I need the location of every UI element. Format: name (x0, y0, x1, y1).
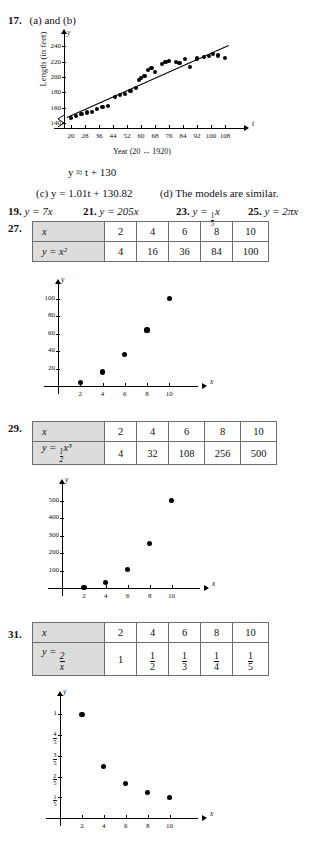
table-cell: 12 (137, 643, 169, 676)
y-tick (60, 518, 64, 519)
fraction-denominator: 5 (53, 779, 56, 787)
x-tick (170, 815, 171, 819)
fraction: 14 (214, 651, 219, 672)
table-cell: 4 (105, 442, 137, 465)
answer-23-prefix: y = (193, 205, 211, 217)
table-cell: 10 (233, 222, 269, 242)
table-header-x: x (33, 422, 105, 442)
data-point (216, 53, 220, 57)
data-point (103, 580, 108, 585)
x-tick-label: 2 (74, 822, 90, 830)
x-tick (127, 125, 128, 129)
data-point (145, 790, 150, 795)
y-tick-label: 60 (36, 329, 55, 337)
data-point (202, 55, 206, 59)
x-tick-label: 6 (120, 592, 136, 600)
y-tick (62, 108, 66, 109)
fraction-numerator: 4 (53, 731, 56, 738)
y-tick (60, 501, 64, 502)
y-tick (58, 797, 62, 798)
x-axis-name: x (212, 579, 215, 588)
y-tick-label: 160 (44, 104, 61, 112)
table-header-x: x (33, 623, 105, 643)
x-tick (169, 383, 170, 387)
table-cell: 4 (137, 422, 169, 442)
data-point (74, 114, 78, 118)
table-row: y = 2x 1 12 13 14 15 (33, 643, 269, 676)
data-point (118, 93, 122, 97)
fraction: 15 (248, 651, 253, 672)
problem-29-number: 29. (8, 422, 22, 434)
fraction: 25 (53, 773, 56, 787)
data-point (101, 764, 106, 769)
problem-27-table: x 2 4 6 8 10 y = x² 4 16 36 84 100 (32, 221, 269, 262)
x-axis-arrow (204, 585, 209, 591)
table-row: y = x² 4 16 36 84 100 (33, 242, 269, 262)
table-header-y-fraction-denominator: x (60, 661, 65, 672)
table-cell: 1 (105, 643, 137, 676)
table-row: x 2 4 6 8 10 (33, 422, 277, 442)
fraction: 13 (182, 651, 187, 672)
fraction-denominator: 2 (150, 661, 155, 672)
x-tick (128, 585, 129, 589)
fraction-denominator: 5 (53, 800, 56, 808)
table-header-y-prefix: y = (42, 442, 59, 453)
fraction-denominator: 5 (53, 738, 56, 746)
x-tick-label: 8 (142, 592, 158, 600)
axis-break-icon (55, 115, 67, 129)
y-tick-label: 1 (38, 709, 57, 717)
x-tick (103, 383, 104, 387)
y-tick-label: 500 (40, 496, 59, 504)
data-point (134, 86, 138, 90)
x-tick (125, 383, 126, 387)
fraction: 15 (53, 794, 56, 808)
x-squared-scatter-chart: yx20406080100246810 (28, 278, 208, 406)
table-cell: 15 (233, 643, 269, 676)
table-cell: 2 (105, 422, 137, 442)
x-axis-line (48, 588, 200, 589)
data-point (85, 110, 89, 114)
answer-25-text: y = 2πx (265, 205, 299, 217)
table-cell: 6 (169, 422, 205, 442)
fraction-denominator: 5 (53, 759, 56, 767)
table-cell: 2 (105, 623, 137, 643)
y-tick (60, 553, 64, 554)
y-axis-line (58, 284, 59, 394)
y-tick (62, 77, 66, 78)
x-axis-arrow (202, 815, 207, 821)
problem-17-part-d: (d) The models are similar. (160, 187, 279, 199)
x-tick (211, 125, 212, 129)
x-tick (113, 125, 114, 129)
x-tick (147, 383, 148, 387)
data-point (142, 74, 146, 78)
bridge-length-scatter-chart: Length (in feet) yt140160180200220240202… (42, 30, 242, 145)
problem-17-prompt: (a) and (b) (30, 14, 76, 26)
fraction-numerator: 1 (248, 651, 253, 661)
y-axis-line (60, 696, 61, 826)
y-tick-label: 180 (44, 88, 61, 96)
x-tick-label: 4 (96, 822, 112, 830)
y-tick (56, 316, 60, 317)
y-tick-label: 400 (40, 513, 59, 521)
y-tick (56, 299, 60, 300)
problem-29-table: x 2 4 6 8 10 y = 12x³ 4 32 108 256 500 (32, 421, 277, 465)
data-point (78, 380, 83, 385)
half-x-cubed-scatter-chart: yx100200300400500246810 (28, 478, 208, 608)
y-axis-name: y (67, 28, 70, 37)
fraction-denominator: 3 (182, 661, 187, 672)
x-tick (126, 815, 127, 819)
table-cell: 8 (201, 623, 233, 643)
fraction-denominator: 5 (248, 661, 253, 672)
y-tick-label: 80 (36, 311, 55, 319)
x-tick-label: 6 (118, 822, 134, 830)
y-tick-label: 100 (36, 294, 55, 302)
problem-17-equation: y ≈ t + 130 (68, 166, 116, 178)
table-cell: 36 (169, 242, 201, 262)
y-tick (58, 714, 62, 715)
x-tick-label: 10 (161, 390, 177, 398)
data-point (128, 89, 132, 93)
chart17-x-axis-caption: Year (20 ↔ 1920) (42, 147, 242, 156)
x-tick-label: 10 (164, 592, 180, 600)
answer-21-number: 21. (83, 205, 97, 217)
data-point (81, 585, 86, 590)
